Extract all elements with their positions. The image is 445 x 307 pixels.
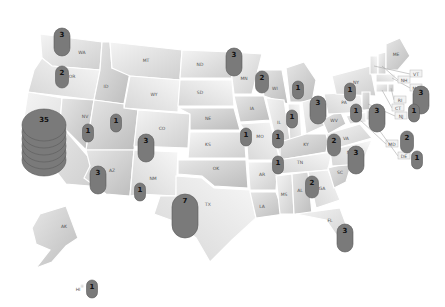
state-label-fl: FL <box>327 218 333 223</box>
marker-nj[interactable]: 3 <box>369 104 385 132</box>
marker-ga[interactable]: 2 <box>306 176 319 198</box>
state-label-nd: ND <box>197 62 204 67</box>
marker-tx[interactable]: 7 <box>172 194 198 238</box>
marker-value: 2 <box>332 137 337 145</box>
marker-co[interactable]: 3 <box>138 134 154 162</box>
state-label-ne: NE <box>205 116 211 121</box>
state-label-ks: KS <box>205 142 211 147</box>
state-nd[interactable] <box>180 50 232 78</box>
callout-line-ct <box>382 90 392 108</box>
state-label-va: VA <box>343 136 350 141</box>
state-label-nv: NV <box>82 114 89 119</box>
marker-value: 2 <box>405 134 410 142</box>
marker-ny[interactable]: 1 <box>345 83 356 101</box>
marker-value: 3 <box>354 149 359 157</box>
marker-nv[interactable]: 1 <box>83 124 94 142</box>
state-ak[interactable] <box>32 206 78 268</box>
marker-mi[interactable]: 1 <box>293 81 304 99</box>
marker-value: 1 <box>296 84 301 92</box>
state-label-hi: HI <box>76 287 81 292</box>
state-label-tn: TN <box>296 160 303 165</box>
marker-in[interactable]: 1 <box>287 110 298 128</box>
marker-wa[interactable]: 3 <box>54 28 70 56</box>
marker-ct[interactable]: 1 <box>409 104 420 122</box>
state-label-ky: KY <box>303 142 309 147</box>
state-sd[interactable] <box>178 80 234 106</box>
marker-value: 1 <box>412 107 417 115</box>
marker-value: 3 <box>419 89 424 97</box>
state-label-me: ME <box>393 52 400 57</box>
us-map: WAORCANVIDMTWYUTCOAZNMNDSDNEKSOKTXMNIAMO… <box>0 0 445 307</box>
marker-value: 3 <box>144 137 149 145</box>
state-label-wi: WI <box>272 86 278 91</box>
marker-mn[interactable]: 3 <box>226 48 242 76</box>
state-ct[interactable] <box>376 84 388 92</box>
state-label-or: OR <box>69 74 76 79</box>
state-label-ri: RI <box>398 98 402 103</box>
marker-mo[interactable]: 1 <box>241 128 252 146</box>
marker-value: 3 <box>96 169 101 177</box>
state-label-sc: SC <box>337 170 343 175</box>
marker-value: 1 <box>276 133 281 141</box>
marker-value: 1 <box>290 113 295 121</box>
marker-oh[interactable]: 3 <box>310 96 326 124</box>
state-ma[interactable] <box>376 74 396 82</box>
marker-nm[interactable]: 1 <box>135 183 146 201</box>
state-label-wv: WV <box>330 118 338 123</box>
marker-value: 1 <box>415 154 420 162</box>
marker-value: 1 <box>138 186 143 194</box>
marker-hi[interactable]: 1 <box>87 280 98 298</box>
marker-fl[interactable]: 3 <box>337 224 353 252</box>
state-vt[interactable] <box>370 56 378 74</box>
state-label-nm: NM <box>149 176 156 181</box>
state-label-ga: GA <box>319 186 326 191</box>
state-label-id: ID <box>104 84 109 89</box>
marker-value: 1 <box>114 117 119 125</box>
state-nj[interactable] <box>362 92 370 110</box>
marker-value: 7 <box>183 197 188 205</box>
state-label-sd: SD <box>197 90 204 95</box>
marker-value: 1 <box>86 127 91 135</box>
state-label-al: AL <box>297 188 303 193</box>
state-label-ak: AK <box>61 224 68 229</box>
state-label-il: IL <box>277 120 281 125</box>
marker-layer <box>22 109 66 141</box>
state-label-ar: AR <box>259 172 265 177</box>
marker-wi[interactable]: 2 <box>256 71 269 93</box>
marker-pa[interactable]: 1 <box>351 104 362 122</box>
marker-md[interactable]: 2 <box>401 131 414 153</box>
state-label-wa: WA <box>78 50 86 55</box>
marker-value: 1 <box>244 131 249 139</box>
state-label-nh: NH <box>401 78 408 83</box>
marker-il[interactable]: 1 <box>273 130 284 148</box>
marker-ut[interactable]: 1 <box>111 114 122 132</box>
marker-or[interactable]: 2 <box>56 66 69 88</box>
state-label-ct: CT <box>395 106 401 111</box>
state-nh[interactable] <box>378 52 386 74</box>
marker-value: 2 <box>310 179 315 187</box>
marker-value: 2 <box>260 74 265 82</box>
state-label-az: AZ <box>109 168 115 173</box>
state-label-de: DE <box>401 154 407 159</box>
marker-nc[interactable]: 3 <box>348 146 364 174</box>
state-label-mn: MN <box>240 76 247 81</box>
state-label-nj: NJ <box>399 114 404 119</box>
marker-value: 1 <box>276 159 281 167</box>
state-label-la: LA <box>259 204 266 209</box>
marker-va[interactable]: 2 <box>328 134 341 156</box>
state-label-mt: MT <box>143 58 150 63</box>
state-label-wy: WY <box>150 92 157 97</box>
state-label-vt: VT <box>413 72 419 77</box>
marker-value: 1 <box>354 107 359 115</box>
marker-de[interactable]: 1 <box>412 151 423 169</box>
marker-value: 3 <box>60 31 65 39</box>
marker-ca[interactable]: 35 <box>22 109 66 176</box>
state-ks[interactable] <box>188 132 246 158</box>
marker-az[interactable]: 3 <box>90 166 106 194</box>
state-hi[interactable] <box>80 284 84 288</box>
marker-value: 3 <box>232 51 237 59</box>
marker-tn[interactable]: 1 <box>273 156 284 174</box>
marker-value: 2 <box>60 69 65 77</box>
marker-value: 3 <box>343 227 348 235</box>
state-label-tx: TX <box>204 202 211 207</box>
